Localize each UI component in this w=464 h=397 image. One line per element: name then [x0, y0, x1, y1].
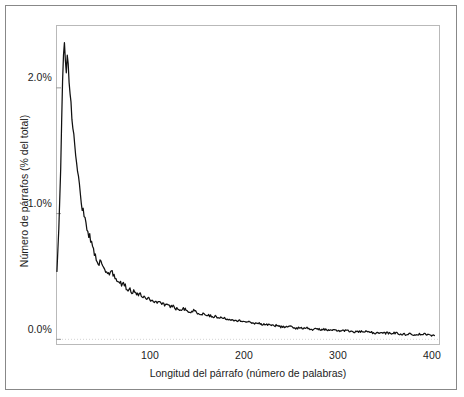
ytick-label-0: 0.0% — [4, 324, 52, 335]
axis-ticks-group — [56, 88, 431, 345]
x-axis-title: Longitud del párrafo (número de palabras… — [56, 367, 440, 379]
plot-canvas — [56, 25, 440, 345]
gridlines-group — [56, 88, 440, 339]
xtick-label-400: 400 — [402, 349, 462, 361]
xtick-label-100: 100 — [120, 349, 180, 361]
y-axis-title: Número de párrafos (% del total) — [18, 81, 30, 301]
data-series-line — [57, 43, 434, 337]
xtick-label-200: 200 — [214, 349, 274, 361]
xtick-label-300: 300 — [308, 349, 368, 361]
chart-figure: 2.0% 1.0% 0.0% 100 200 300 400 Número de… — [0, 0, 464, 397]
